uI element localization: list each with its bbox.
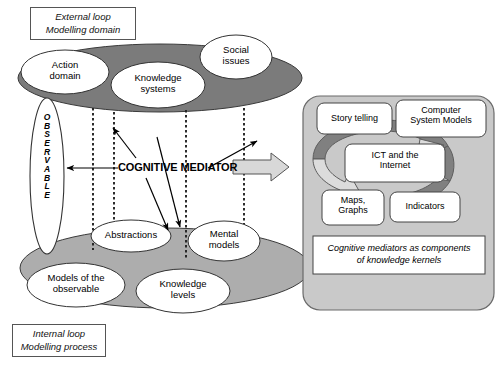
ict-line1: ICT and the xyxy=(345,150,445,160)
legend-external-line1: External loop xyxy=(55,11,110,23)
legend-internal-loop: Internal loop Modelling process xyxy=(12,324,106,357)
legend-external-loop: External loop Modelling domain xyxy=(30,7,136,40)
kernel-item-computer-system-models-label: Computer System Models xyxy=(396,105,486,125)
knowledge-systems-line2: systems xyxy=(113,84,203,95)
story-telling-line1: Story telling xyxy=(317,113,392,123)
action-domain-line2: domain xyxy=(25,71,105,82)
node-models-observable-label: Models of the observable xyxy=(28,273,124,294)
legend-internal-line2: Modelling process xyxy=(21,341,98,353)
kernel-caption-label: Cognitive mediators as components of kno… xyxy=(313,243,485,266)
node-social-issues-label: Social issues xyxy=(201,45,271,66)
diagram-root: External loop Modelling domain Internal … xyxy=(0,0,502,373)
legend-external-line2: Modelling domain xyxy=(46,24,120,36)
kernel-item-ict-label: ICT and the Internet xyxy=(345,150,445,170)
observable-label: O B S E R V A B L E xyxy=(39,113,55,200)
node-knowledge-levels-label: Knowledge levels xyxy=(139,279,227,300)
observable-letter-9: E xyxy=(39,191,55,200)
node-mental-models-label: Mental models xyxy=(189,229,259,250)
maps-graphs-line2: Graphs xyxy=(322,205,384,215)
node-abstractions-label: Abstractions xyxy=(91,230,171,241)
knowledge-levels-line2: levels xyxy=(139,290,227,301)
computer-system-models-line2: System Models xyxy=(396,115,486,125)
kernel-caption-line2: of knowledge kernels xyxy=(313,255,485,267)
cognitive-mediator-text: COGNITIVE MEDIATOR xyxy=(118,161,237,173)
node-knowledge-systems-label: Knowledge systems xyxy=(113,73,203,94)
computer-system-models-line1: Computer xyxy=(396,105,486,115)
block-arrow-right-to-kernel-panel xyxy=(233,153,289,181)
kernel-item-indicators-label: Indicators xyxy=(390,201,460,211)
node-action-domain-label: Action domain xyxy=(25,60,105,81)
kernel-item-story-telling-label: Story telling xyxy=(317,113,392,123)
maps-graphs-line1: Maps, xyxy=(322,195,384,205)
cognitive-mediator-label: COGNITIVE MEDIATOR xyxy=(118,161,234,173)
arrow-up-to-knowledge-systems xyxy=(113,128,136,158)
social-issues-line2: issues xyxy=(201,56,271,67)
abstractions-line1: Abstractions xyxy=(91,230,171,241)
models-observable-line2: observable xyxy=(28,284,124,295)
ict-line2: Internet xyxy=(345,160,445,170)
kernel-caption-line1: Cognitive mediators as components xyxy=(313,243,485,255)
kernel-item-maps-graphs-label: Maps, Graphs xyxy=(322,195,384,215)
legend-internal-line1: Internal loop xyxy=(33,328,85,340)
mental-models-line2: models xyxy=(189,240,259,251)
mediator-connectors xyxy=(67,128,257,230)
indicators-line1: Indicators xyxy=(390,201,460,211)
